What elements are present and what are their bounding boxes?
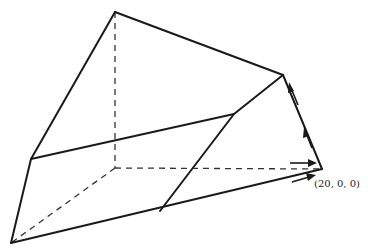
point-label-20-0-0: (20, 0, 0): [314, 178, 360, 189]
arrow-icon-right-upper: [290, 159, 317, 167]
edge-top-to-top-right: [115, 12, 283, 75]
hidden-x-axis-edge: [115, 168, 322, 169]
edge-top-to-left-mid: [31, 12, 115, 159]
edge-bottom-left-to-right-bottom: [11, 169, 322, 243]
polyhedron-diagram: [0, 0, 368, 252]
edge-left-mid-to-mid-right: [31, 114, 234, 159]
edge-mid-right-to-top-right: [234, 75, 283, 114]
arrow-icon-up-lower: [303, 127, 312, 148]
edge-left-mid-to-bottom-left: [11, 159, 31, 243]
